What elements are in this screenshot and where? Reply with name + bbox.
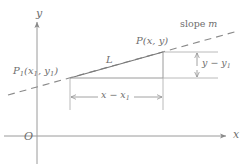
origin-label: O bbox=[24, 131, 33, 142]
x-axis-label: x bbox=[233, 129, 239, 140]
rise-dimension-label: y − y1 bbox=[202, 58, 231, 68]
point-p1-x: x bbox=[28, 65, 34, 76]
line-label: L bbox=[106, 55, 113, 65]
point-p-name: P bbox=[136, 35, 143, 46]
rise-dimension-text: y − y bbox=[202, 57, 227, 68]
slope-label-text: slope bbox=[180, 18, 208, 29]
run-dimension-label: x − x1 bbox=[101, 90, 130, 100]
point-p1-subscript: 1 bbox=[20, 70, 24, 78]
point-p1-name: P bbox=[13, 65, 20, 76]
slope-diagram-figure: y x O slope m P(x, y) P1(x1, y1) L y − y… bbox=[0, 0, 246, 167]
rise-dimension-subscript: 1 bbox=[227, 62, 231, 70]
run-dimension-text: x − x bbox=[101, 89, 126, 100]
point-p1-y-subscript: 1 bbox=[50, 70, 54, 78]
point-p1-x-subscript: 1 bbox=[34, 70, 38, 78]
line-segment-L bbox=[70, 52, 163, 78]
slope-label: slope m bbox=[180, 19, 217, 29]
point-p-coords: (x, y) bbox=[143, 35, 168, 46]
point-p-label: P(x, y) bbox=[136, 36, 168, 46]
slope-symbol: m bbox=[208, 18, 217, 29]
y-axis-label: y bbox=[36, 8, 42, 19]
point-p1-label: P1(x1, y1) bbox=[13, 66, 58, 76]
run-dimension-subscript: 1 bbox=[126, 94, 130, 102]
point-p1-paren-close: ) bbox=[54, 65, 58, 76]
